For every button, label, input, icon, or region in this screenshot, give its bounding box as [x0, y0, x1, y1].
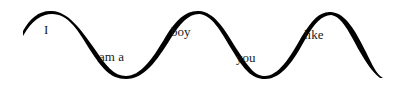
- ribbon-wave-icon: [0, 0, 407, 88]
- ribbon-wave: [23, 11, 383, 79]
- word-2: am a: [99, 50, 124, 63]
- word-1: I: [44, 23, 48, 36]
- word-4: you: [236, 51, 256, 64]
- wave-figure: I am a boy you like: [0, 0, 407, 88]
- word-3: boy: [171, 25, 191, 38]
- word-5: like: [304, 28, 324, 41]
